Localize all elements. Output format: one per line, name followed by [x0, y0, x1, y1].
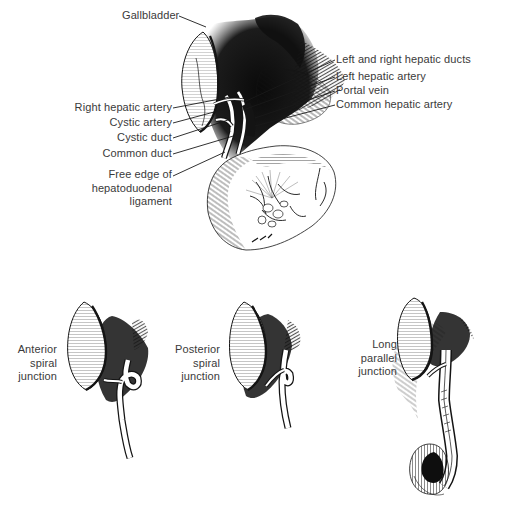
label-cystic-duct: Cystic duct [117, 131, 172, 145]
label-left-right-hepatic-ducts: Left and right hepatic ducts [336, 53, 471, 67]
label-text: Portal vein [336, 84, 389, 98]
label-text: Free edge of [92, 168, 172, 182]
label-text: Cystic duct [117, 131, 172, 145]
label-text: Long [358, 338, 397, 352]
long-parallel-illustration [392, 298, 474, 495]
label-text: Left and right hepatic ducts [336, 53, 471, 67]
leader-line-gallbladder [179, 16, 206, 27]
label-text: Anterior [18, 343, 57, 357]
label-text: Gallbladder [122, 9, 179, 23]
label-text: Cystic artery [110, 116, 172, 130]
label-free-edge-hepatoduodenal-ligament: Free edge of hepatoduodenal ligament [92, 168, 172, 209]
main-hepatobiliary-illustration [182, 15, 345, 250]
anterior-spiral-illustration [68, 302, 149, 458]
label-common-duct: Common duct [102, 147, 172, 161]
label-common-hepatic-artery: Common hepatic artery [336, 98, 452, 112]
label-portal-vein: Portal vein [336, 84, 389, 98]
label-text: junction [358, 365, 397, 379]
label-text: Posterior [175, 343, 220, 357]
label-left-hepatic-artery: Left hepatic artery [336, 70, 426, 84]
label-text: spiral [175, 357, 220, 371]
label-gallbladder: Gallbladder [122, 9, 179, 23]
posterior-spiral-illustration [230, 302, 301, 428]
label-right-hepatic-artery: Right hepatic artery [75, 101, 172, 115]
label-cystic-artery: Cystic artery [110, 116, 172, 130]
label-long-parallel-junction: Long parallel junction [358, 338, 397, 379]
label-text: junction [175, 370, 220, 384]
label-text: Left hepatic artery [336, 70, 426, 84]
label-text: Right hepatic artery [75, 101, 172, 115]
label-text: hepatoduodenal [92, 182, 172, 196]
label-text: spiral [18, 357, 57, 371]
illustration-layer [0, 0, 520, 512]
label-posterior-spiral-junction: Posterior spiral junction [175, 343, 220, 384]
label-text: ligament [92, 195, 172, 209]
label-text: junction [18, 370, 57, 384]
label-anterior-spiral-junction: Anterior spiral junction [18, 343, 57, 384]
anatomical-figure: Gallbladder Left and right hepatic ducts… [0, 0, 520, 512]
label-text: parallel [358, 352, 397, 366]
duodenum-shape [207, 146, 335, 250]
label-text: Common hepatic artery [336, 98, 452, 112]
label-text: Common duct [102, 147, 172, 161]
